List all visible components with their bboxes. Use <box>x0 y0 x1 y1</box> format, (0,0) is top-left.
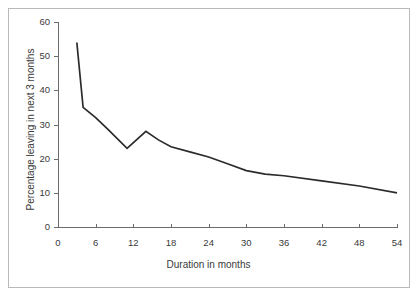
x-axis-tick-label: 42 <box>316 238 327 248</box>
x-axis-ticks <box>59 224 398 228</box>
y-axis-title: Percentage leaving in next 3 months <box>25 30 36 230</box>
x-axis-tick-label: 24 <box>203 238 214 248</box>
x-axis-title: Duration in months <box>0 259 417 270</box>
x-axis-tick-label: 36 <box>279 238 290 248</box>
x-axis-tick-label: 0 <box>55 238 60 248</box>
y-axis-ticks <box>54 23 59 228</box>
y-axis-tick-label: 60 <box>18 17 50 27</box>
x-axis-tick-label: 48 <box>354 238 365 248</box>
axes-group <box>58 22 398 228</box>
x-axis-tick-label: 18 <box>166 238 177 248</box>
line-chart-plot <box>0 0 417 296</box>
chart-figure: 0102030405060 061218243036424854 Duratio… <box>0 0 417 296</box>
data-series-group <box>77 43 397 193</box>
x-axis-tick-label: 30 <box>241 238 252 248</box>
x-axis-tick-label: 6 <box>93 238 98 248</box>
series-line-percentage-leaving <box>77 43 397 193</box>
x-axis-tick-label: 12 <box>128 238 139 248</box>
x-axis-tick-label: 54 <box>392 238 403 248</box>
